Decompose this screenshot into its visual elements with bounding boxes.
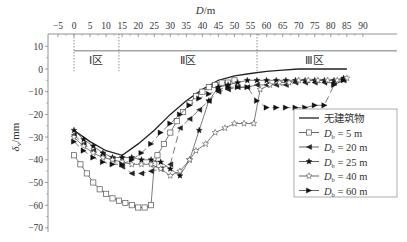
- x-tick-label: 10: [101, 21, 111, 31]
- y-tick-label: 0: [38, 65, 43, 75]
- marker-star-open: [257, 86, 263, 92]
- marker-square: [148, 203, 153, 208]
- region-markers: Ⅰ区Ⅱ区Ⅲ区: [74, 34, 397, 71]
- marker-square: [142, 205, 147, 210]
- marker-square: [110, 196, 115, 201]
- marker-triangle-right: [274, 105, 279, 110]
- x-tick-label: 40: [198, 21, 208, 31]
- marker-square: [84, 171, 89, 176]
- x-tick-label: 30: [166, 21, 176, 31]
- legend-label: Db = 20 m: [323, 142, 367, 154]
- y-tick-label: −60: [28, 201, 43, 211]
- marker-star-filled: [196, 127, 202, 133]
- marker-triangle-left: [129, 171, 134, 176]
- x-tick-label: 25: [150, 21, 160, 31]
- marker-star-open: [231, 120, 237, 126]
- marker-star-filled: [254, 77, 260, 83]
- y-tick-label: 10: [34, 42, 44, 52]
- legend-label: Db = 60 m: [323, 186, 367, 198]
- marker-triangle-right: [264, 105, 269, 110]
- marker-star-open: [222, 125, 228, 131]
- y-tick-label: −30: [28, 133, 43, 143]
- x-tick-label: 85: [342, 21, 352, 31]
- marker-square: [97, 187, 102, 192]
- x-tick-label: 35: [182, 21, 192, 31]
- marker-triangle-right: [283, 105, 288, 110]
- marker-triangle-right: [158, 130, 163, 135]
- marker-star-open: [241, 120, 247, 126]
- marker-triangle-left: [139, 171, 144, 176]
- marker-square: [168, 130, 173, 135]
- x-tick-label: 60: [262, 21, 272, 31]
- marker-square: [123, 200, 128, 205]
- x-tick-label: 20: [133, 21, 143, 31]
- legend-label: Db = 40 m: [323, 171, 367, 183]
- marker-star-open: [251, 120, 257, 126]
- x-tick-label: 15: [117, 21, 127, 31]
- marker-triangle-right: [206, 91, 211, 96]
- marker-square: [136, 205, 141, 210]
- x-tick-label: −5: [53, 21, 63, 31]
- marker-square: [161, 141, 166, 146]
- marker-square: [306, 130, 311, 135]
- marker-star-open: [167, 172, 173, 178]
- x-tick-label: 80: [326, 21, 336, 31]
- legend: 无建筑物Db = 5 mDb = 20 mDb = 25 mDb = 40 mD…: [294, 109, 397, 198]
- x-tick-label: 75: [310, 21, 320, 31]
- marker-square: [219, 80, 224, 85]
- legend-label: Db = 25 m: [323, 157, 367, 169]
- marker-star-filled: [264, 77, 270, 83]
- marker-star-open: [187, 157, 193, 163]
- x-tick-label: 50: [230, 21, 240, 31]
- region-label: Ⅲ区: [305, 54, 324, 66]
- marker-square: [206, 85, 211, 90]
- marker-square: [200, 89, 205, 94]
- marker-star-filled: [177, 172, 183, 178]
- marker-star-filled: [244, 77, 250, 83]
- x-tick-label: 45: [214, 21, 224, 31]
- x-tick-label: 55: [246, 21, 256, 31]
- x-tick-label: 90: [358, 21, 368, 31]
- y-tick-label: −70: [28, 223, 43, 233]
- marker-square: [116, 198, 121, 203]
- marker-star-open: [193, 148, 199, 154]
- marker-star-open: [212, 129, 218, 135]
- marker-square: [78, 162, 83, 167]
- y-tick-label: −10: [28, 87, 43, 97]
- x-tick-label: 0: [72, 21, 77, 31]
- region-label: Ⅱ区: [180, 54, 196, 66]
- x-tick-label: 70: [294, 21, 304, 31]
- x-axis-label: D/m: [195, 4, 216, 16]
- marker-square: [104, 191, 109, 196]
- marker-square: [91, 180, 96, 185]
- marker-triangle-right: [322, 103, 327, 108]
- marker-square: [155, 153, 160, 158]
- y-tick-label: −20: [28, 110, 43, 120]
- x-tick-label: 5: [88, 21, 93, 31]
- x-tick-label: 65: [278, 21, 288, 31]
- region-label: Ⅰ区: [89, 54, 103, 66]
- marker-triangle-right: [254, 98, 259, 103]
- marker-triangle-right: [312, 103, 317, 108]
- marker-triangle-left: [148, 169, 153, 174]
- legend-label: Db = 5 m: [323, 128, 362, 140]
- y-axis-label: δv/mm: [9, 122, 23, 151]
- marker-triangle-left: [177, 125, 182, 130]
- settlement-chart: −5051015202530354045505560657075808590D/…: [0, 0, 407, 242]
- marker-star-open: [138, 161, 144, 167]
- y-tick-label: −40: [28, 155, 43, 165]
- marker-square: [71, 153, 76, 158]
- marker-triangle-right: [197, 96, 202, 101]
- legend-label: 无建筑物: [324, 112, 364, 124]
- y-tick-label: −50: [28, 178, 43, 188]
- marker-square: [129, 203, 134, 208]
